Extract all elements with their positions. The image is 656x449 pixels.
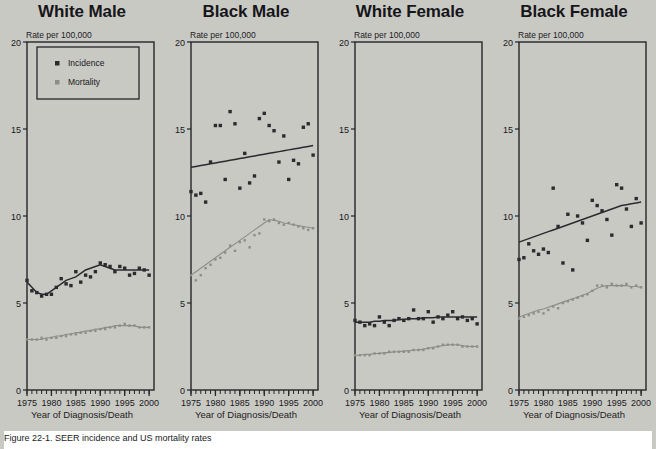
trend-line-mortality — [355, 345, 477, 355]
data-point-mortality — [239, 241, 241, 243]
data-point-mortality — [408, 351, 410, 353]
data-point-mortality — [552, 305, 554, 307]
figure-caption: Figure 22-1. SEER incidence and US morta… — [4, 431, 652, 449]
data-point-incidence — [581, 221, 584, 224]
data-point-mortality — [297, 225, 299, 227]
data-point-incidence — [118, 265, 121, 268]
data-point-incidence — [238, 186, 241, 189]
y-tick-label: 5 — [16, 299, 21, 309]
x-tick-label: 1995 — [607, 398, 627, 408]
data-point-incidence — [586, 239, 589, 242]
data-point-mortality — [248, 246, 250, 248]
x-tick-label: 1990 — [254, 398, 274, 408]
trend-line-incidence — [191, 146, 313, 168]
data-point-mortality — [354, 354, 356, 356]
data-point-mortality — [273, 218, 275, 220]
data-point-incidence — [138, 267, 141, 270]
data-point-incidence — [311, 153, 314, 156]
y-tick-label: 5 — [344, 299, 349, 309]
data-point-incidence — [551, 186, 554, 189]
data-point-mortality — [625, 283, 627, 285]
data-point-mortality — [70, 333, 72, 335]
data-point-incidence — [272, 129, 275, 132]
data-point-mortality — [547, 309, 549, 311]
data-point-mortality — [572, 298, 574, 300]
data-point-incidence — [427, 310, 430, 313]
data-point-mortality — [229, 244, 231, 246]
data-point-mortality — [219, 257, 221, 259]
x-tick-label: 1990 — [582, 398, 602, 408]
data-point-incidence — [248, 181, 251, 184]
x-tick-label: 1990 — [418, 398, 438, 408]
data-point-mortality — [75, 333, 77, 335]
trend-line-mortality — [519, 286, 641, 317]
data-point-incidence — [108, 265, 111, 268]
y-tick-label: 10 — [175, 212, 185, 222]
data-point-incidence — [635, 197, 638, 200]
y-tick-label: 15 — [175, 125, 185, 135]
data-point-incidence — [363, 324, 366, 327]
data-point-incidence — [615, 183, 618, 186]
data-point-mortality — [537, 311, 539, 313]
data-point-incidence — [547, 251, 550, 254]
data-point-mortality — [442, 344, 444, 346]
data-point-mortality — [283, 224, 285, 226]
data-point-mortality — [123, 323, 125, 325]
data-point-incidence — [620, 186, 623, 189]
data-point-incidence — [35, 291, 38, 294]
x-tick-label: 2000 — [467, 398, 487, 408]
data-point-mortality — [312, 227, 314, 229]
data-point-mortality — [557, 307, 559, 309]
data-point-mortality — [518, 317, 520, 319]
data-point-mortality — [447, 344, 449, 346]
x-tick-label: 1985 — [558, 398, 578, 408]
data-point-mortality — [119, 324, 121, 326]
x-axis-title: Year of Diagnosis/Death — [164, 409, 328, 420]
data-point-mortality — [99, 328, 101, 330]
data-point-incidence — [397, 317, 400, 320]
data-point-mortality — [576, 297, 578, 299]
data-point-mortality — [50, 337, 52, 339]
y-tick-label: 20 — [339, 38, 349, 48]
data-point-mortality — [128, 324, 130, 326]
legend-marker-incidence — [55, 61, 60, 66]
y-tick-label: 15 — [11, 125, 21, 135]
plot-area: 05101520197519801985199019952000 — [164, 0, 328, 430]
data-point-mortality — [606, 286, 608, 288]
data-point-mortality — [635, 284, 637, 286]
data-point-incidence — [103, 263, 106, 266]
data-point-incidence — [527, 242, 530, 245]
y-tick-label: 15 — [339, 125, 349, 135]
data-point-incidence — [373, 324, 376, 327]
x-tick-label: 2000 — [631, 398, 651, 408]
data-point-incidence — [79, 280, 82, 283]
x-tick-label: 1975 — [509, 398, 529, 408]
chart-panel: White MaleRate per 100,00005101520197519… — [0, 0, 164, 430]
data-point-incidence — [561, 261, 564, 264]
data-point-mortality — [611, 283, 613, 285]
data-point-mortality — [586, 293, 588, 295]
data-point-mortality — [94, 330, 96, 332]
data-point-incidence — [74, 270, 77, 273]
data-point-mortality — [60, 335, 62, 337]
data-point-incidence — [378, 315, 381, 318]
data-point-incidence — [282, 134, 285, 137]
plot-area: 05101520197519801985199019952000 — [328, 0, 492, 430]
y-tick-label: 5 — [508, 299, 513, 309]
data-point-mortality — [104, 328, 106, 330]
x-tick-label: 2000 — [139, 398, 159, 408]
data-point-mortality — [200, 274, 202, 276]
data-point-mortality — [31, 338, 33, 340]
data-point-incidence — [461, 315, 464, 318]
data-point-incidence — [143, 268, 146, 271]
data-point-incidence — [446, 313, 449, 316]
plot-area: 05101520197519801985199019952000 — [492, 0, 656, 430]
data-point-mortality — [373, 352, 375, 354]
data-point-mortality — [368, 354, 370, 356]
y-tick-label: 10 — [339, 212, 349, 222]
data-point-incidence — [302, 126, 305, 129]
legend-label-mortality: Mortality — [68, 77, 101, 87]
x-tick-label: 1995 — [279, 398, 299, 408]
data-point-mortality — [422, 349, 424, 351]
chart-panel: White FemaleRate per 100,000051015201975… — [328, 0, 492, 430]
